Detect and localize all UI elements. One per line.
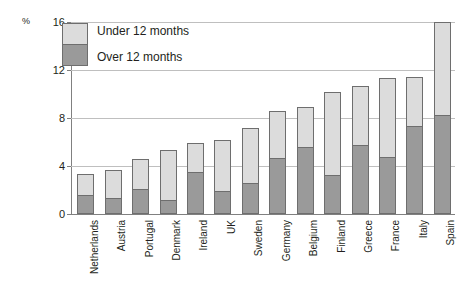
x-axis-label-austria: Austria (117, 220, 127, 251)
x-axis-line (71, 214, 455, 215)
x-axis-label-france: France (391, 220, 401, 251)
x-axis-label-portugal: Portugal (145, 220, 155, 257)
bar-sweden (242, 128, 259, 214)
bar-italy (406, 77, 423, 214)
x-axis-label-germany: Germany (282, 220, 292, 261)
y-axis-tick-12: 12 (53, 65, 65, 76)
bar-uk (214, 140, 231, 214)
bar-belgium (297, 107, 314, 214)
bar-segment-over-12-months (298, 147, 313, 213)
y-axis-tick-0: 0 (59, 209, 65, 220)
legend: Under 12 months Over 12 months (62, 23, 189, 66)
x-axis-label-ireland: Ireland (199, 220, 209, 251)
y-axis-unit-label: % (22, 16, 30, 26)
bar-segment-over-12-months (325, 175, 340, 213)
bar-austria (105, 170, 122, 214)
bar-segment-over-12-months (78, 195, 93, 213)
stacked-bar-chart: % 0481216 NetherlandsAustriaPortugalDenm… (0, 0, 470, 295)
bar-spain (434, 22, 451, 214)
bar-segment-over-12-months (270, 158, 285, 213)
bar-segment-over-12-months (380, 157, 395, 213)
bar-segment-over-12-months (353, 145, 368, 213)
x-axis-label-netherlands: Netherlands (90, 220, 100, 274)
bar-segment-over-12-months (133, 189, 148, 213)
bar-portugal (132, 159, 149, 214)
y-axis-tickmark-0 (67, 214, 71, 215)
bar-segment-over-12-months (435, 115, 450, 213)
x-axis-label-finland: Finland (337, 220, 347, 253)
bar-segment-over-12-months (106, 198, 121, 213)
bar-denmark (160, 150, 177, 214)
y-axis-tick-4: 4 (59, 161, 65, 172)
legend-item-over-12-months: Over 12 months (97, 51, 189, 63)
x-axis-label-denmark: Denmark (172, 220, 182, 261)
bar-netherlands (77, 174, 94, 214)
bar-segment-over-12-months (161, 200, 176, 213)
bar-finland (324, 92, 341, 214)
x-axis-label-spain: Spain (446, 220, 456, 246)
x-axis-label-greece: Greece (364, 220, 374, 253)
legend-swatch-over-segment (63, 44, 87, 66)
bar-segment-over-12-months (407, 126, 422, 213)
bar-greece (352, 86, 369, 214)
bar-segment-over-12-months (215, 191, 230, 213)
legend-item-under-12-months: Under 12 months (97, 25, 189, 37)
bar-ireland (187, 143, 204, 214)
legend-labels: Under 12 months Over 12 months (97, 23, 189, 66)
bar-segment-over-12-months (188, 172, 203, 213)
bar-segment-over-12-months (243, 183, 258, 213)
x-axis-label-belgium: Belgium (309, 220, 319, 256)
bar-germany (269, 111, 286, 214)
bar-france (379, 78, 396, 214)
y-axis-tick-8: 8 (59, 113, 65, 124)
x-axis-label-italy: Italy (419, 220, 429, 238)
x-axis-label-sweden: Sweden (254, 220, 264, 256)
legend-swatch (62, 23, 88, 66)
x-axis-label-uk: UK (227, 220, 237, 234)
